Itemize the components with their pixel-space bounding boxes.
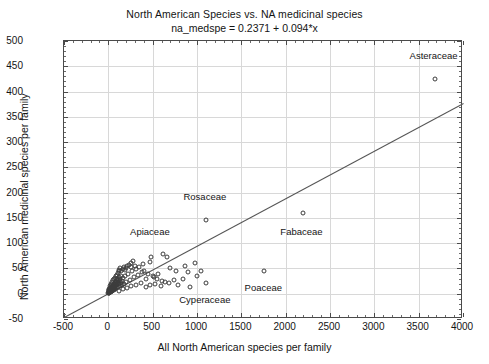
y-axis-tick: [457, 41, 461, 42]
y-axis-minor-tick: [459, 309, 461, 310]
data-point: [164, 255, 169, 260]
y-axis-minor-tick: [64, 56, 66, 57]
plot-area: [63, 40, 462, 318]
data-point: [148, 260, 153, 265]
data-point: [203, 218, 208, 223]
x-axis-minor-tick: [410, 41, 411, 43]
y-axis-tick-label: 300: [6, 136, 23, 147]
y-axis-minor-tick: [459, 284, 461, 285]
y-axis-minor-tick: [459, 137, 461, 138]
x-axis-minor-tick: [277, 41, 278, 43]
y-axis-minor-tick: [64, 188, 66, 189]
x-axis-minor-tick: [126, 41, 127, 43]
y-axis-tick: [457, 294, 461, 295]
y-axis-tick-label: 200: [6, 186, 23, 197]
y-axis-minor-tick: [64, 46, 66, 47]
x-axis-minor-tick: [436, 41, 437, 43]
y-axis-tick: [457, 142, 461, 143]
y-axis-minor-tick: [64, 274, 66, 275]
gridline-horizontal: [64, 92, 461, 93]
y-axis-tick: [64, 167, 68, 168]
x-axis-minor-tick: [401, 315, 402, 317]
y-axis-minor-tick: [64, 304, 66, 305]
gridline-vertical: [374, 41, 375, 317]
x-axis-tick-label: 3500: [407, 321, 429, 332]
y-axis-minor-tick: [459, 127, 461, 128]
gridline-horizontal: [64, 218, 461, 219]
x-axis-minor-tick: [436, 315, 437, 317]
y-axis-minor-tick: [64, 81, 66, 82]
y-axis-minor-tick: [64, 289, 66, 290]
y-axis-minor-tick: [459, 238, 461, 239]
point-annotation-label: Poaceae: [245, 282, 283, 293]
y-axis-minor-tick: [459, 51, 461, 52]
y-axis-tick: [457, 92, 461, 93]
y-axis-minor-tick: [459, 304, 461, 305]
y-axis-tick: [457, 193, 461, 194]
y-axis-minor-tick: [459, 102, 461, 103]
y-axis-minor-tick: [64, 86, 66, 87]
data-point: [193, 261, 198, 266]
data-point: [300, 210, 305, 215]
data-point: [180, 276, 185, 281]
y-axis-minor-tick: [459, 203, 461, 204]
x-axis-title: All North American species per family: [0, 341, 489, 353]
gridline-horizontal: [64, 294, 461, 295]
x-axis-tick-label: 4000: [451, 321, 473, 332]
y-axis-minor-tick: [64, 238, 66, 239]
x-axis-minor-tick: [91, 315, 92, 317]
x-axis-minor-tick: [82, 41, 83, 43]
y-axis-minor-tick: [64, 223, 66, 224]
y-axis-tick: [64, 142, 68, 143]
x-axis-minor-tick: [365, 315, 366, 317]
y-axis-minor-tick: [459, 61, 461, 62]
gridline-horizontal: [64, 167, 461, 168]
x-axis-tick: [374, 313, 375, 317]
y-axis-minor-tick: [459, 253, 461, 254]
data-point: [195, 273, 200, 278]
x-axis-minor-tick: [357, 41, 358, 43]
x-axis-minor-tick: [303, 315, 304, 317]
x-axis-minor-tick: [295, 315, 296, 317]
y-axis-tick: [64, 268, 68, 269]
y-axis-minor-tick: [64, 248, 66, 249]
y-axis-minor-tick: [459, 299, 461, 300]
data-point: [158, 283, 163, 288]
y-axis-minor-tick: [459, 274, 461, 275]
x-axis-tick: [108, 313, 109, 317]
x-axis-minor-tick: [162, 315, 163, 317]
x-axis-minor-tick: [348, 41, 349, 43]
x-axis-tick: [108, 41, 109, 45]
y-axis-minor-tick: [459, 208, 461, 209]
y-axis-tick: [457, 268, 461, 269]
gridline-vertical: [330, 41, 331, 317]
x-axis-minor-tick: [188, 315, 189, 317]
y-axis-tick-label: 250: [6, 161, 23, 172]
y-axis-minor-tick: [459, 177, 461, 178]
y-axis-minor-tick: [459, 76, 461, 77]
y-axis-minor-tick: [64, 253, 66, 254]
y-axis-minor-tick: [459, 289, 461, 290]
y-axis-tick: [457, 319, 461, 320]
y-axis-minor-tick: [64, 97, 66, 98]
gridline-horizontal: [64, 117, 461, 118]
x-axis-tick: [153, 41, 154, 45]
x-axis-minor-tick: [99, 41, 100, 43]
y-axis-minor-tick: [64, 162, 66, 163]
x-axis-minor-tick: [144, 41, 145, 43]
y-axis-minor-tick: [64, 61, 66, 62]
data-point: [144, 276, 149, 281]
x-axis-minor-tick: [144, 315, 145, 317]
gridline-vertical: [286, 41, 287, 317]
x-axis-tick: [241, 41, 242, 45]
y-axis-minor-tick: [64, 112, 66, 113]
y-axis-minor-tick: [459, 122, 461, 123]
x-axis-minor-tick: [162, 41, 163, 43]
x-axis-minor-tick: [215, 315, 216, 317]
y-axis-minor-tick: [459, 198, 461, 199]
y-axis-minor-tick: [64, 228, 66, 229]
x-axis-minor-tick: [126, 315, 127, 317]
y-axis-minor-tick: [459, 162, 461, 163]
point-annotation-label: Fabaceae: [280, 226, 322, 237]
y-axis-minor-tick: [64, 71, 66, 72]
